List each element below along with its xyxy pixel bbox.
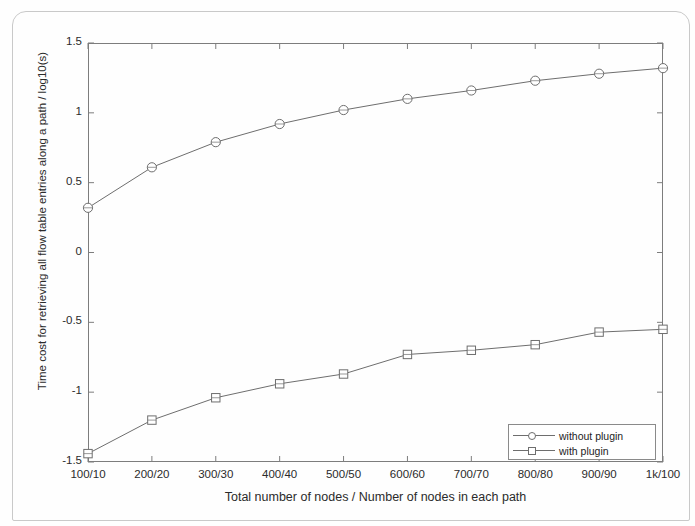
legend-entry-without-plugin: without plugin [513, 428, 651, 443]
y-tick-label: -1.5 [40, 454, 82, 466]
x-tick-label: 700/70 [439, 468, 503, 480]
x-tick-label: 1k/100 [631, 468, 695, 480]
x-tick-label: 900/90 [567, 468, 631, 480]
legend-entry-with-plugin: with plugin [513, 443, 651, 458]
circle-marker-icon [513, 430, 555, 442]
x-tick-label: 600/60 [375, 468, 439, 480]
x-tick-label: 500/50 [312, 468, 376, 480]
data-series-layer [83, 64, 667, 458]
x-tick-label: 800/80 [503, 468, 567, 480]
scanned-page: 1.510.50-0.5-1-1.5 100/10200/20300/30400… [0, 0, 695, 526]
x-axis-ticks [88, 43, 663, 462]
x-axis-title: Total number of nodes / Number of nodes … [88, 490, 663, 504]
y-axis-title: Time cost for retrieving all flow table … [36, 11, 48, 431]
x-tick-label: 300/30 [184, 468, 248, 480]
legend-label: without plugin [559, 430, 623, 442]
x-tick-label: 400/40 [248, 468, 312, 480]
x-tick-label: 100/10 [56, 468, 120, 480]
legend-label: with plugin [559, 445, 609, 457]
y-axis-ticks [88, 43, 663, 462]
chart-legend: without plugin with plugin [508, 424, 656, 460]
chart-figure: 1.510.50-0.5-1-1.5 100/10200/20300/30400… [0, 0, 695, 526]
square-marker-icon [513, 445, 555, 457]
x-tick-label: 200/20 [120, 468, 184, 480]
